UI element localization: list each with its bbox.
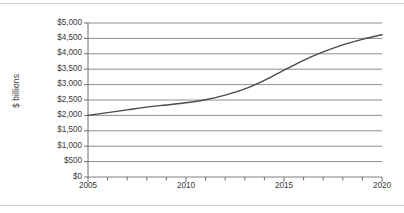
y-tick-label: $4,000 <box>36 48 82 57</box>
y-tick-label: $1,500 <box>36 125 82 134</box>
chart-figure: $ billions $0$500$1,000$1,500$2,000$2,50… <box>0 0 404 213</box>
data-series-line <box>88 35 382 116</box>
y-tick-label: $4,500 <box>36 33 82 42</box>
y-tick-label: $2,000 <box>36 110 82 119</box>
y-tick-label: $0 <box>36 172 82 181</box>
x-axis-ticks <box>88 177 382 182</box>
y-tick-label: $3,500 <box>36 64 82 73</box>
y-tick-label: $2,500 <box>36 95 82 104</box>
y-tick-label: $5,000 <box>36 18 82 27</box>
y-axis-tick-labels: $0$500$1,000$1,500$2,000$2,500$3,000$3,5… <box>34 0 82 177</box>
y-tick-label: $500 <box>36 156 82 165</box>
x-tick-label: 2010 <box>166 181 206 190</box>
x-tick-label: 2020 <box>362 181 402 190</box>
x-tick-label: 2005 <box>68 181 108 190</box>
y-axis-title: $ billions <box>11 51 21 131</box>
y-tick-label: $3,000 <box>36 79 82 88</box>
x-tick-label: 2015 <box>264 181 304 190</box>
y-tick-label: $1,000 <box>36 141 82 150</box>
